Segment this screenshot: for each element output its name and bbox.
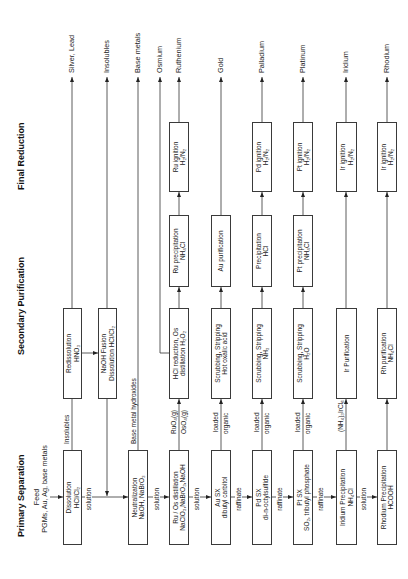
output-insolubles: Insolubles [103,40,111,73]
box-pd-ignition: Pd ignition H₂/N₂ [252,122,272,192]
box-pt-scrubbing: Scrubbing, Stripping H₂O [293,308,313,399]
stream-label-base-metal-hydroxides: Base metal hydroxides [130,378,137,444]
box-line2: H₂/N₂ [262,149,269,165]
box-line1: Scrubbing, Stripping [296,324,303,383]
stream-label-loaded: loaded [253,412,260,432]
box-line2: HCl/Cl₂ [73,487,80,508]
output-base-metals: Base metals [134,33,142,73]
box-line1: Ru ignition [172,142,179,173]
box-rhodium-precipitation: Rhodium Precipitation HCOOH [377,450,397,545]
box-line2: HCl [262,246,269,257]
box-pt-precipitation: Pt precipitation NH₄Cl [293,215,313,287]
box-line2: di-n-octylsulfide [262,475,269,520]
box-iridium-precipitation: Iridium Precipitation NH₄Cl [336,450,357,545]
stage-title-secondary: Secondary Purification [16,257,26,355]
box-au-sx: Au SX dibutyl carbitol [211,450,231,545]
box-pd-scrubbing: Scrubbing, Stripping NH₃ [252,308,272,399]
output-osmium: Osmium [156,46,164,73]
pgm-refining-flowsheet: Primary Separation Secondary Purificatio… [0,0,408,579]
box-hcl-reduction: HCl reduction, Os distillation H₂O₂ [169,308,189,399]
box-line2: Dissolution HCl/Cl₂ [108,326,115,381]
box-line1: Ru precipitation [172,228,179,273]
output-gold: Gold [217,58,225,73]
box-naoh-fusion: NaOH Fusion Dissolution HCl/Cl₂ [98,308,117,399]
box-line1: Ir ignition [380,144,387,170]
box-line1: Au purification [217,230,224,271]
box-line1: Redissolution [65,334,72,373]
box-line1: Scrubbing, Stripping [255,324,262,383]
stream-label-loaded: loaded [212,412,219,432]
box-line2: HCOOH [387,485,394,509]
stream-label-organic: organic [263,413,270,434]
box-line2: NH₄Cl [179,242,186,260]
box-line2: NaClO₃,NaBrO₃,NaOH [179,464,186,530]
box-line1: Pt SX [296,489,303,506]
box-line1: Dissolution [65,482,72,514]
box-line2: distillation H₂O₂ [179,331,186,376]
box-line2: Hot oxalic acid [221,332,228,374]
box-line2: H₂/N₂ [303,149,310,165]
box-ru-os-distillation: Ru / Os distillation NaClO₃,NaBrO₃,NaOH [169,450,189,545]
box-line1: Neutralization [131,478,138,518]
box-line1: Pd ignition [255,142,262,172]
box-rh-purification: Rh purification NH₄Cl [377,308,397,399]
stream-label-insolubles: Insolubles [63,415,70,444]
stream-label-ruo4: RuO₄(g) [170,410,177,434]
box-line1: Rhodium Precipitation [380,466,387,530]
output-platinum: Platinum [299,45,307,73]
box-dissolution: Dissolution HCl/Cl₂ [63,450,82,545]
box-line1: Pt precipitation [296,230,303,273]
stage-title-final: Final Reduction [16,123,26,191]
box-line1: Au SX [214,488,221,506]
box-pt-ignition: Pt ignition H₂/N₂ [293,122,313,192]
box-line2: NaOH, NaBrO₃ [138,475,145,519]
box-line2: H₂/N₂ [179,149,186,165]
box-ru-ignition: Ru ignition H₂/N₂ [169,122,189,192]
box-au-scrubbing: Scrubbing, Stripping Hot oxalic acid [211,308,231,399]
box-ir-purification: Ir Purification [336,308,357,399]
box-line2: H₂/N₂ [347,149,354,165]
box-line1: Ir Purification [343,335,350,373]
box-line2: SO₂, tributyl phosphate [303,464,310,531]
box-line2: NH₄Cl [347,488,354,506]
box-pt-sx: Pt SX SO₂, tributyl phosphate [293,450,313,545]
box-line2: HNO₃ [73,345,80,362]
box-pd-sx: Pd SX di-n-octylsulfide [252,450,272,545]
box-line2: NH₃ [262,347,269,359]
box-ru-precipitation: Ru precipitation NH₄Cl [169,215,189,287]
stage-title-primary: Primary Separation [16,454,26,537]
box-line1: Ir ignition [339,144,346,170]
box-pd-precipitation: Precipitation HCl [252,215,272,287]
output-iridium: Iridium [342,51,350,73]
box-line1: Rh purification [380,333,387,375]
connector-osmium [160,77,169,353]
output-palladium: Palladium [258,41,266,73]
stream-label-loaded: loaded [294,412,301,432]
box-line1: Ru / Os distillation [172,471,179,523]
stream-label-solution: solution [193,484,200,514]
box-line1: NaOH Fusion [100,334,107,373]
output-silver-lead: Silver, Lead [68,35,76,73]
stream-label-organic: organic [222,413,229,434]
box-line1: Iridium Precipitation [339,469,346,526]
stream-label-organic: organic [304,413,311,434]
box-line1: Pt ignition [296,143,303,172]
stream-label-raffinate: raffinate [235,484,242,514]
box-line2: NH₄Cl [387,344,394,362]
box-line1: HCl reduction, Os [172,328,179,379]
stream-label-solution: solution [85,484,92,514]
output-ruthenium: Ruthenium [175,38,183,73]
box-line1: Scrubbing, Stripping [214,324,221,383]
box-line2: NH₄Cl [303,242,310,260]
box-neutralization: Neutralization NaOH, NaBrO₃ [128,450,148,545]
stream-label-iridium-salt: (NH₄)₃IrCl₆ [337,400,344,432]
box-line1: Pd SX [255,488,262,506]
stream-label-solution: solution [360,484,367,514]
box-ir-ignition: Ir ignition H₂/N₂ [336,122,357,192]
box-rh-ignition: Ir ignition H₂/N₂ [377,122,397,192]
stream-label-solution: solution [153,484,160,514]
stream-label-raffinate: raffinate [276,484,283,514]
box-line2: dibutyl carbitol [221,477,228,519]
box-line2: H₂O [303,347,310,359]
stream-label-raffinate: raffinate [317,484,324,514]
